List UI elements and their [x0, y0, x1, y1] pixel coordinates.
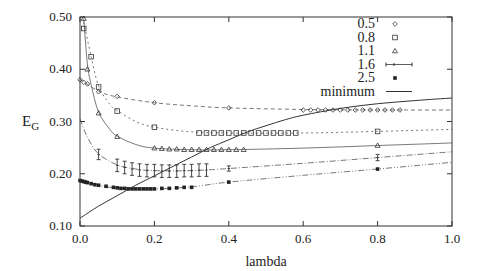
- y-tick-label: 0.20: [49, 166, 72, 181]
- triangle-marker: [393, 48, 398, 52]
- star-marker: [227, 180, 231, 184]
- star-marker: [123, 187, 127, 191]
- triangle-marker: [219, 147, 224, 151]
- star-marker: [167, 187, 171, 191]
- series-line-1-1: [84, 19, 452, 150]
- axis-ticks: [80, 17, 452, 226]
- y-axis-label-main: E: [22, 113, 31, 129]
- y-tick-label: 0.50: [49, 9, 72, 24]
- star-marker: [182, 186, 186, 190]
- square-marker: [197, 131, 202, 136]
- chart: 0.00.20.40.60.81.0 0.100.200.300.400.50 …: [0, 0, 479, 271]
- star-marker: [145, 187, 149, 191]
- plot-frame: [80, 17, 452, 226]
- y-axis-label-sub: G: [31, 120, 39, 132]
- x-tick-label: 0.8: [369, 231, 385, 246]
- star-marker: [153, 187, 157, 191]
- star-marker: [175, 186, 179, 190]
- series-line-0-5: [80, 79, 452, 110]
- star-marker: [130, 187, 134, 191]
- triangle-marker: [197, 147, 202, 151]
- star-marker: [119, 187, 123, 191]
- triangle-marker: [85, 67, 90, 71]
- y-tick-label: 0.10: [49, 218, 72, 233]
- star-marker: [104, 184, 108, 188]
- star-marker: [160, 187, 164, 191]
- y-tick-label: 0.40: [49, 61, 72, 76]
- star-marker: [190, 186, 194, 190]
- legend-label: minimum: [321, 84, 376, 99]
- series-line-minimum: [80, 98, 452, 218]
- star-marker: [86, 181, 90, 185]
- x-tick-label: 0.4: [221, 231, 238, 246]
- y-tick-label: 0.30: [49, 114, 72, 129]
- square-marker: [393, 35, 398, 40]
- star-marker: [393, 76, 397, 80]
- x-axis-tick-labels: 0.00.20.40.60.81.0: [72, 231, 460, 246]
- triangle-marker: [174, 147, 179, 151]
- y-axis-tick-labels: 0.100.200.300.400.50: [49, 9, 72, 233]
- x-axis-label: lambda: [245, 254, 287, 269]
- star-marker: [138, 187, 142, 191]
- star-marker: [112, 186, 116, 190]
- star-marker: [141, 187, 145, 191]
- plot-markers: [78, 16, 403, 191]
- diamond-marker: [301, 108, 306, 113]
- diamond-marker: [393, 22, 398, 27]
- triangle-marker: [211, 147, 216, 151]
- star-marker: [97, 183, 101, 187]
- x-tick-label: 0.2: [146, 231, 162, 246]
- star-marker: [115, 186, 119, 190]
- x-tick-label: 0.0: [72, 231, 88, 246]
- x-tick-label: 1.0: [444, 231, 460, 246]
- y-axis-label: EG: [22, 113, 39, 132]
- star-marker: [89, 182, 93, 186]
- star-marker: [127, 187, 131, 191]
- x-tick-label: 0.6: [295, 231, 312, 246]
- diamond-marker: [308, 108, 313, 113]
- legend: 0.50.81.11.62.5minimum: [321, 16, 412, 99]
- star-marker: [93, 183, 97, 187]
- star-marker: [134, 187, 138, 191]
- star-marker: [376, 167, 380, 171]
- star-marker: [149, 187, 153, 191]
- diamond-marker: [115, 94, 120, 99]
